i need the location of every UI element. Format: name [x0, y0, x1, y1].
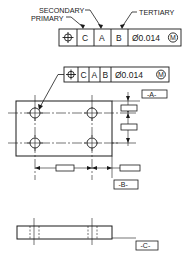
dimension-box	[120, 165, 140, 171]
arrow-icon	[126, 138, 130, 143]
dimension-box	[121, 105, 137, 111]
gdt-diagram: SECONDARY PRIMARY TERTIARY C A B Ø0.014 …	[0, 0, 191, 271]
plate-side-view: -C-	[17, 218, 158, 250]
callout-labels: SECONDARY PRIMARY TERTIARY	[31, 6, 174, 29]
arrow-icon	[87, 166, 92, 170]
arrow-icon	[126, 96, 130, 101]
datum-secondary: A	[99, 33, 105, 43]
primary-leader	[66, 17, 83, 27]
part-feature-control-frame: C A B Ø0.014 M	[38, 67, 169, 110]
datum-secondary: A	[92, 70, 98, 80]
datum-tertiary: B	[116, 33, 122, 43]
vertical-dimensions: -A-	[112, 90, 167, 146]
datum-c-label: -C-	[141, 242, 151, 249]
tertiary-label: TERTIARY	[139, 8, 174, 17]
dimension-box	[121, 124, 137, 130]
datum-b-label: -B-	[119, 181, 129, 188]
datum-primary: C	[82, 33, 88, 43]
tolerance-value: Ø0.014	[132, 33, 160, 43]
datum-primary: C	[81, 70, 87, 80]
top-feature-control-frame: C A B Ø0.014 M	[59, 29, 181, 46]
arrow-icon	[92, 166, 97, 170]
datum-tertiary: B	[103, 70, 109, 80]
modifier-letter: M	[170, 34, 176, 41]
tolerance-value: Ø0.014	[115, 70, 143, 80]
datum-a-label: -A-	[147, 91, 157, 98]
horizontal-dimensions: -B-	[35, 156, 140, 189]
position-icon	[63, 32, 74, 43]
arrow-icon	[120, 24, 125, 29]
arrow-icon	[98, 24, 103, 29]
arrow-icon	[80, 24, 85, 29]
arrow-icon	[35, 166, 40, 170]
arrow-icon	[107, 166, 112, 170]
dimension-box	[56, 165, 74, 171]
primary-label: PRIMARY	[31, 14, 64, 23]
frame-leader	[40, 75, 64, 108]
arrow-icon	[126, 113, 130, 118]
modifier-letter: M	[158, 71, 164, 78]
position-icon	[66, 70, 76, 80]
